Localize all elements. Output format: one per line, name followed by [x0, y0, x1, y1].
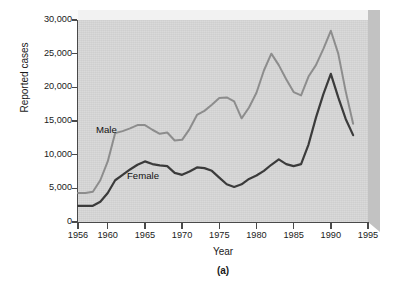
chart-plot-area [0, 0, 396, 289]
series-label-male: Male [96, 124, 117, 135]
series-label-female: Female [127, 170, 159, 181]
figure-container: 05,00010,00015,00020,00025,00030,000 195… [0, 0, 396, 289]
series-line-male [78, 31, 353, 193]
series-line-female [78, 74, 353, 206]
